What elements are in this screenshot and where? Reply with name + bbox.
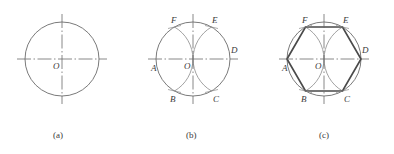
caption-b: (b) [186, 131, 197, 140]
vertex-label-b-e: E [212, 16, 218, 25]
vertex-label-c-f: F [302, 16, 308, 25]
center-label-c: O [315, 62, 322, 71]
vertex-label-c-e: E [343, 16, 349, 25]
vertex-label-c-d: D [362, 46, 369, 55]
hexagon-construction-figure: O (a) O A D B C F E (b) O A D B C F E (c… [0, 0, 394, 154]
center-label-a: O [53, 62, 60, 71]
caption-a: (a) [53, 131, 63, 140]
vertex-label-c-a: A [282, 64, 288, 73]
caption-c: (c) [319, 131, 329, 140]
vertex-label-b-b: B [170, 95, 176, 104]
vertex-label-b-c: C [213, 95, 219, 104]
vertex-label-c-c: C [344, 95, 350, 104]
center-label-b: O [184, 62, 191, 71]
vertex-label-b-f: F [171, 16, 177, 25]
vertex-label-c-b: B [301, 95, 307, 104]
vertex-label-b-d: D [231, 46, 238, 55]
vertex-label-b-a: A [151, 64, 157, 73]
